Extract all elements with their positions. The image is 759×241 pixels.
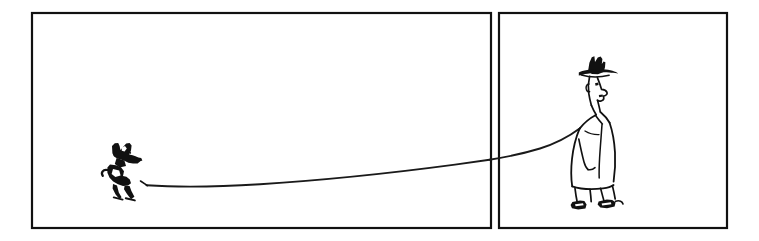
panel-right-border [499, 13, 727, 228]
comic-canvas [0, 0, 759, 241]
panel-left-border [32, 13, 491, 228]
comic-strip: Man walking dog on a long leash [0, 0, 759, 241]
dog-spot [119, 178, 122, 181]
